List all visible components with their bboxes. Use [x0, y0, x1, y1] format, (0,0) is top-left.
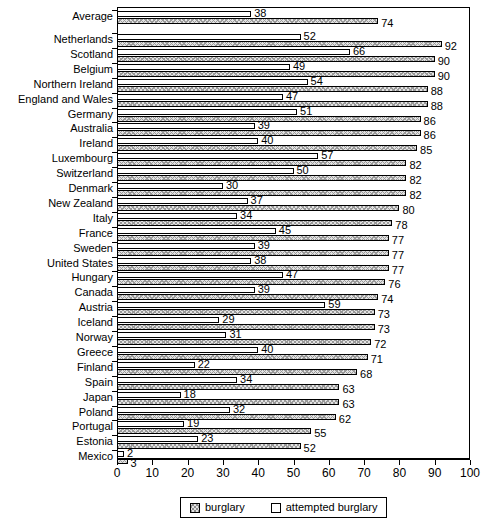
bar-attempted-burglary: [117, 94, 283, 100]
category-label: Luxembourg: [0, 153, 113, 164]
x-axis-tick-label: 20: [168, 467, 208, 479]
bar-attempted-burglary: [117, 436, 198, 442]
category-label: Netherlands: [0, 34, 113, 45]
category-label: France: [0, 228, 113, 239]
bar-burglary: [117, 250, 389, 256]
bar-burglary: [117, 279, 385, 285]
bar-attempted-burglary: [117, 407, 230, 413]
value-label-burglary: 68: [360, 369, 372, 380]
category-label: Finland: [0, 362, 113, 373]
category-label: Switzerland: [0, 168, 113, 179]
chart-legend: burglary attempted burglary: [180, 497, 387, 518]
value-label-burglary: 55: [314, 428, 326, 439]
x-axis-tick-label: 40: [238, 467, 278, 479]
bar-attempted-burglary: [117, 11, 251, 17]
bar-attempted-burglary: [117, 168, 294, 174]
bar-burglary: [117, 175, 406, 181]
x-axis-tick: [435, 460, 436, 465]
bar-burglary: [117, 399, 339, 405]
bar-attempted-burglary: [117, 377, 237, 383]
bar-burglary: [117, 220, 392, 226]
value-label-burglary: 86: [424, 116, 436, 127]
bar-attempted-burglary: [117, 153, 318, 159]
x-axis-tick: [117, 460, 118, 465]
category-label: Canada: [0, 287, 113, 298]
bar-attempted-burglary: [117, 183, 223, 189]
bar-burglary: [117, 86, 428, 92]
category-label: Spain: [0, 377, 113, 388]
value-label-burglary: 71: [371, 354, 383, 365]
bar-burglary: [117, 101, 428, 107]
bar-burglary: [117, 235, 389, 241]
value-label-burglary: 90: [438, 71, 450, 82]
value-label-burglary: 73: [378, 324, 390, 335]
bar-attempted-burglary: [117, 228, 276, 234]
value-label-burglary: 78: [395, 220, 407, 231]
bar-attempted-burglary: [117, 64, 290, 70]
category-label: England and Wales: [0, 94, 113, 105]
bar-rows-container: 3874529266904990548847885186398640855782…: [117, 8, 470, 459]
x-axis-tick-label: 70: [344, 467, 384, 479]
x-axis-tick: [399, 460, 400, 465]
x-axis-tick: [223, 460, 224, 465]
bar-burglary: [117, 18, 378, 24]
value-label-burglary: 88: [431, 86, 443, 97]
bar-burglary: [117, 443, 301, 449]
bar-burglary: [117, 56, 435, 62]
bar-attempted-burglary: [117, 347, 258, 353]
category-label: Japan: [0, 392, 113, 403]
category-label: Scotland: [0, 49, 113, 60]
x-axis-tick: [258, 460, 259, 465]
x-axis-tick: [188, 460, 189, 465]
value-label-burglary: 72: [374, 339, 386, 350]
bar-attempted-burglary: [117, 138, 258, 144]
category-label: Ireland: [0, 138, 113, 149]
bar-burglary: [117, 354, 368, 360]
bar-attempted-burglary: [117, 123, 255, 129]
bar-burglary: [117, 369, 357, 375]
category-label: Average: [0, 11, 113, 22]
value-label-burglary: 77: [392, 235, 404, 246]
bar-burglary: [117, 71, 435, 77]
bar-burglary: [117, 339, 371, 345]
x-axis-tick-label: 10: [132, 467, 172, 479]
category-label: Iceland: [0, 317, 113, 328]
category-label: Hungary: [0, 272, 113, 283]
value-label-burglary: 74: [381, 18, 393, 29]
x-axis-tick: [152, 460, 153, 465]
x-axis-tick: [470, 460, 471, 465]
value-label-burglary: 77: [392, 250, 404, 261]
x-axis-tick-label: 80: [379, 467, 419, 479]
bar-burglary: [117, 41, 442, 47]
bar-attempted-burglary: [117, 272, 283, 278]
bar-attempted-burglary: [117, 451, 124, 457]
value-label-burglary: 88: [431, 101, 443, 112]
category-label: Mexico: [0, 451, 113, 462]
x-axis-tick: [329, 460, 330, 465]
category-label: Portugal: [0, 421, 113, 432]
bar-burglary: [117, 414, 336, 420]
bar-burglary: [117, 265, 389, 271]
value-label-burglary: 90: [438, 56, 450, 67]
category-label: Denmark: [0, 183, 113, 194]
x-axis-tick-label: 100: [450, 467, 490, 479]
legend-item-burglary: burglary: [190, 502, 245, 513]
bar-attempted-burglary: [117, 287, 255, 293]
x-axis-tick-label: 50: [274, 467, 314, 479]
bar-burglary: [117, 309, 375, 315]
x-axis-tick-label: 60: [309, 467, 349, 479]
category-label: Belgium: [0, 64, 113, 75]
value-label-burglary: 82: [409, 160, 421, 171]
value-label-burglary: 82: [409, 175, 421, 186]
bar-burglary: [117, 160, 406, 166]
bar-attempted-burglary: [117, 243, 255, 249]
category-label: Sweden: [0, 243, 113, 254]
legend-label-attempted-burglary: attempted burglary: [286, 502, 378, 513]
category-axis-labels: AverageNetherlandsScotlandBelgiumNorther…: [0, 8, 113, 459]
bar-burglary: [117, 205, 399, 211]
category-label: Norway: [0, 332, 113, 343]
burglary-victimisation-bar-chart: AverageNetherlandsScotlandBelgiumNorther…: [0, 0, 490, 524]
x-axis-tick-label: 30: [203, 467, 243, 479]
value-label-burglary: 82: [409, 190, 421, 201]
value-label-burglary: 52: [304, 443, 316, 454]
